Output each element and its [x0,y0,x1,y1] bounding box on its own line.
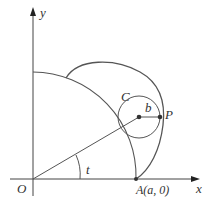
circle-label: C [121,90,130,103]
radius-label: b [145,101,152,114]
angle-label: t [86,163,90,176]
point-p [158,115,163,120]
y-axis-label: y [40,6,46,19]
point-a [134,177,138,181]
y-axis-arrow-icon [30,7,36,16]
epicycloid-diagram: y x O C b P t A(a, 0) [0,0,206,206]
x-axis-label: x [196,182,202,195]
point-p-label: P [165,108,173,121]
center-point [137,115,142,120]
diagram-canvas [0,0,206,206]
origin-label: O [17,182,26,195]
traced-curve [66,62,164,179]
point-a-label: A(a, 0) [136,184,169,196]
angle-arc [76,155,80,179]
